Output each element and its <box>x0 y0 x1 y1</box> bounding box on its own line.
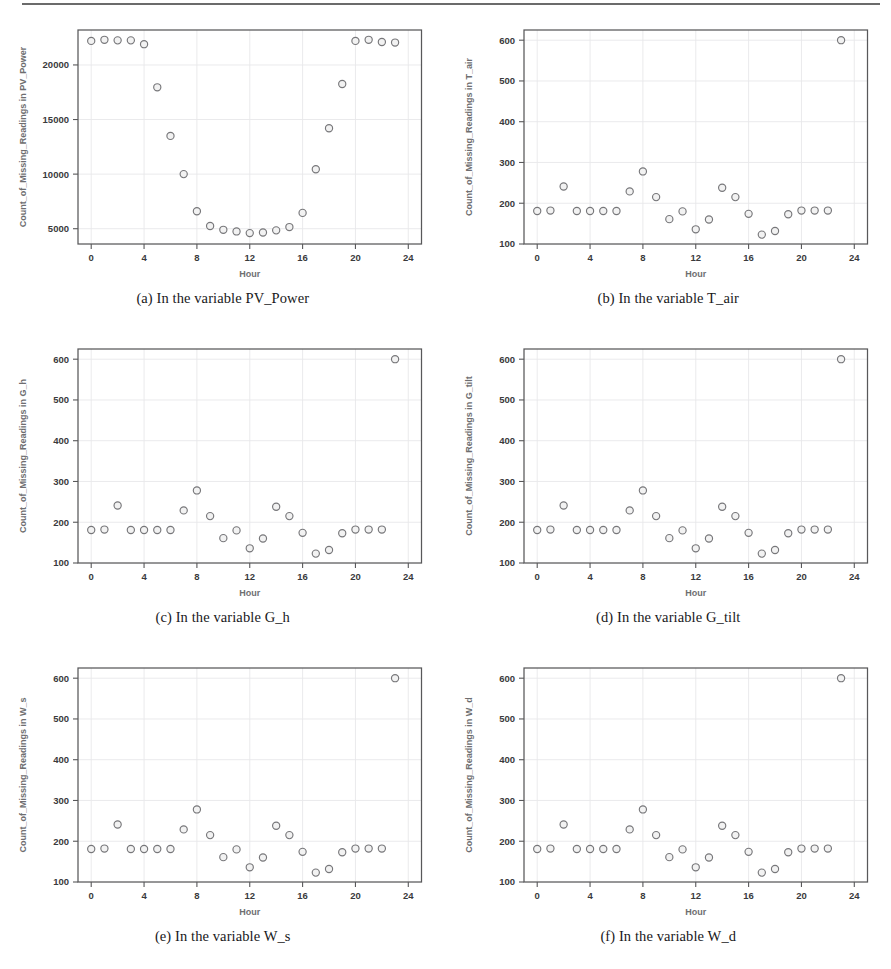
data-point <box>705 216 712 223</box>
subplot-panel: 04812162024100200300400500600HourCount_o… <box>446 650 891 969</box>
data-point <box>626 188 633 195</box>
scatter-plot: 04812162024100200300400500600HourCount_o… <box>0 650 446 932</box>
y-tick-label: 400 <box>499 435 515 446</box>
data-point <box>299 209 306 216</box>
data-point <box>154 845 161 852</box>
data-point <box>180 171 187 178</box>
data-point <box>811 845 818 852</box>
data-point <box>259 854 266 861</box>
x-tick-label: 0 <box>534 890 539 901</box>
y-tick-label: 400 <box>499 116 515 127</box>
y-axis-title: Count_of_Missing_Readings in G_h <box>18 379 28 533</box>
y-tick-label: 10000 <box>43 169 69 180</box>
subplot-caption: (c) In the variable G_h <box>0 609 446 626</box>
y-tick-label: 400 <box>499 754 515 765</box>
y-axis-title: Count_of_Missing_Readings in T_air <box>464 57 474 216</box>
data-point <box>101 526 108 533</box>
data-point <box>744 848 751 855</box>
data-point <box>88 37 95 44</box>
y-tick-label: 500 <box>53 713 69 724</box>
x-tick-label: 20 <box>796 571 807 582</box>
data-point <box>127 845 134 852</box>
y-tick-label: 300 <box>499 795 515 806</box>
data-point <box>193 208 200 215</box>
data-point <box>639 168 646 175</box>
x-tick-label: 20 <box>796 252 807 263</box>
data-point <box>246 545 253 552</box>
data-point <box>824 526 831 533</box>
subplot-panel: 04812162024100200300400500600HourCount_o… <box>0 331 446 650</box>
data-point <box>286 513 293 520</box>
data-point <box>560 821 567 828</box>
y-tick-label: 100 <box>499 238 515 249</box>
subplot-caption: (a) In the variable PV_Power <box>0 290 446 307</box>
data-series <box>88 356 399 558</box>
data-point <box>771 865 778 872</box>
subplot-panel: 04812162024100200300400500600HourCount_o… <box>0 650 446 969</box>
y-axis-title: Count_of_Missing_Readings in W_s <box>18 697 28 852</box>
data-point <box>378 526 385 533</box>
x-tick-label: 8 <box>194 252 199 263</box>
scatter-plot: 04812162024100200300400500600HourCount_o… <box>446 650 891 932</box>
data-point <box>784 530 791 537</box>
data-point <box>573 526 580 533</box>
data-point <box>378 845 385 852</box>
data-point <box>586 207 593 214</box>
y-tick-label: 500 <box>53 394 69 405</box>
x-axis-title: Hour <box>239 269 260 279</box>
data-point <box>352 845 359 852</box>
y-tick-label: 20000 <box>43 59 69 70</box>
data-point <box>533 207 540 214</box>
data-point <box>193 806 200 813</box>
data-point <box>599 526 606 533</box>
data-point <box>246 229 253 236</box>
y-tick-label: 200 <box>53 836 69 847</box>
x-tick-label: 16 <box>297 890 308 901</box>
subplot-caption: (d) In the variable G_tilt <box>446 609 891 626</box>
scatter-plot: 04812162024100200300400500600HourCount_o… <box>446 12 891 294</box>
x-tick-label: 20 <box>350 252 361 263</box>
data-series <box>88 36 399 236</box>
data-point <box>391 356 398 363</box>
data-point <box>758 869 765 876</box>
data-point <box>207 513 214 520</box>
subplot-panel: 048121620245000100001500020000HourCount_… <box>0 12 446 331</box>
data-point <box>391 39 398 46</box>
data-point <box>207 832 214 839</box>
data-series <box>533 37 844 239</box>
y-tick-label: 200 <box>499 198 515 209</box>
data-point <box>233 228 240 235</box>
data-point <box>101 36 108 43</box>
subplot-panel: 04812162024100200300400500600HourCount_o… <box>446 331 891 650</box>
data-point <box>665 854 672 861</box>
x-axis-title: Hour <box>685 269 706 279</box>
y-tick-label: 600 <box>499 35 515 46</box>
x-axis-title: Hour <box>685 907 706 917</box>
x-tick-label: 8 <box>194 571 199 582</box>
y-tick-label: 600 <box>499 673 515 684</box>
data-point <box>665 535 672 542</box>
data-point <box>573 207 580 214</box>
y-tick-label: 400 <box>53 754 69 765</box>
data-point <box>560 502 567 509</box>
x-tick-label: 12 <box>244 890 255 901</box>
y-tick-label: 200 <box>53 517 69 528</box>
data-point <box>114 502 121 509</box>
x-tick-label: 8 <box>640 571 645 582</box>
data-point <box>824 845 831 852</box>
data-point <box>233 527 240 534</box>
subplot-panel: 04812162024100200300400500600HourCount_o… <box>446 12 891 331</box>
data-point <box>586 845 593 852</box>
data-point <box>718 822 725 829</box>
data-point <box>639 487 646 494</box>
x-tick-label: 24 <box>403 571 414 582</box>
x-tick-label: 24 <box>848 571 859 582</box>
data-point <box>193 487 200 494</box>
data-point <box>88 526 95 533</box>
data-point <box>705 535 712 542</box>
data-point <box>626 826 633 833</box>
data-point <box>180 507 187 514</box>
data-point <box>273 822 280 829</box>
data-point <box>652 194 659 201</box>
y-tick-label: 15000 <box>43 114 69 125</box>
